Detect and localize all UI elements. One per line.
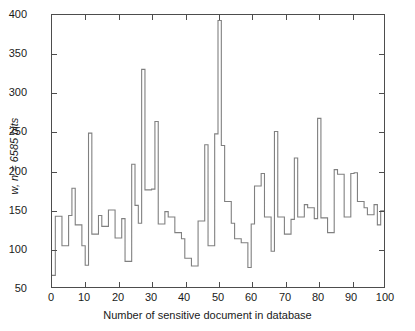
x-axis-tick [152, 15, 153, 20]
x-tick-label: 90 [337, 292, 365, 303]
y-axis-tick [379, 132, 384, 133]
data-series-stairs [52, 15, 384, 287]
y-axis-tick [52, 211, 57, 212]
x-axis-tick [252, 15, 253, 20]
x-axis-tick [85, 282, 86, 287]
x-tick-label: 10 [70, 292, 98, 303]
x-axis-tick [353, 15, 354, 20]
y-axis-tick [379, 211, 384, 212]
x-tick-label: 80 [304, 292, 332, 303]
x-axis-title: Number of sensitive document in database [0, 309, 415, 321]
y-axis-tick [379, 172, 384, 173]
x-axis-tick [186, 15, 187, 20]
x-tick-label: 0 [37, 292, 65, 303]
y-axis-tick [52, 172, 57, 173]
y-axis-tick [379, 54, 384, 55]
x-axis-tick [85, 15, 86, 20]
x-tick-label: 100 [371, 292, 399, 303]
x-axis-tick [152, 282, 153, 287]
x-axis-tick [186, 282, 187, 287]
x-axis-tick [353, 282, 354, 287]
x-axis-tick [119, 15, 120, 20]
x-tick-label: 40 [170, 292, 198, 303]
y-axis-tick [52, 93, 57, 94]
y-axis-title: w, n = 6585 bits [8, 56, 20, 256]
x-tick-label: 60 [237, 292, 265, 303]
plot-area [51, 14, 385, 288]
y-axis-tick [52, 54, 57, 55]
x-axis-tick [319, 282, 320, 287]
y-tick-label: 400 [9, 9, 27, 20]
x-tick-label: 50 [204, 292, 232, 303]
x-axis-tick [286, 282, 287, 287]
x-tick-label: 20 [104, 292, 132, 303]
x-axis-tick [219, 15, 220, 20]
y-axis-tick [52, 132, 57, 133]
x-axis-tick [286, 15, 287, 20]
x-axis-tick [219, 282, 220, 287]
y-tick-label: 50 [15, 283, 27, 294]
x-axis-tick [119, 282, 120, 287]
y-axis-tick [379, 250, 384, 251]
x-axis-tick [252, 282, 253, 287]
y-axis-tick [52, 250, 57, 251]
x-axis-tick [319, 15, 320, 20]
x-tick-label: 70 [271, 292, 299, 303]
chart-figure: 400 350 300 250 200 150 100 50 0 10 20 3… [0, 0, 415, 331]
y-axis-tick [379, 93, 384, 94]
x-tick-label: 30 [137, 292, 165, 303]
